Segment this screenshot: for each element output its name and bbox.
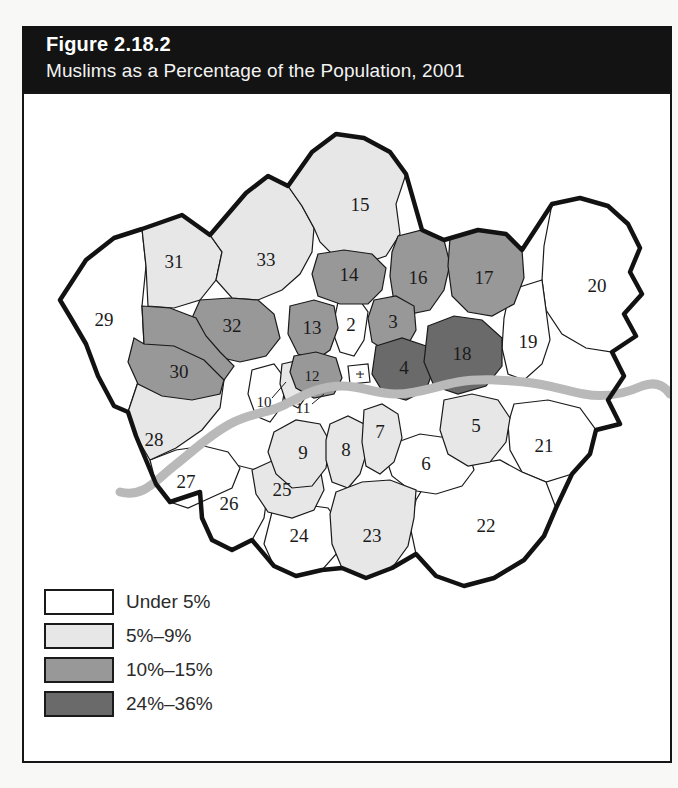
map-svg: 1 2 3 4 5 6 7 8 9 10 11 12 13 14 15 16 1	[24, 94, 670, 594]
figure-page: Figure 2.18.2 Muslims as a Percentage of…	[0, 0, 678, 788]
region-label-31: 31	[165, 251, 184, 272]
region-label-27: 27	[177, 471, 196, 492]
choropleth-map: 1 2 3 4 5 6 7 8 9 10 11 12 13 14 15 16 1	[24, 94, 670, 594]
legend-label-5-9: 5%–9%	[126, 625, 192, 647]
legend-item[interactable]: 24%–36%	[44, 688, 344, 720]
region-label-32: 32	[223, 315, 242, 336]
region-label-13: 13	[303, 317, 322, 338]
legend-item[interactable]: 10%–15%	[44, 654, 344, 686]
region-label-22: 22	[477, 515, 496, 536]
figure-number: Figure 2.18.2	[46, 31, 672, 57]
legend-label-24-36: 24%–36%	[126, 693, 213, 715]
region-label-23: 23	[363, 525, 382, 546]
region-label-8: 8	[341, 439, 351, 460]
region-label-19: 19	[519, 331, 538, 352]
legend-swatch-24-36	[44, 691, 114, 717]
legend-item[interactable]: 5%–9%	[44, 620, 344, 652]
region-label-11: 11	[296, 400, 310, 416]
region-label-16: 16	[409, 267, 428, 288]
region-label-3: 3	[388, 311, 398, 332]
region-label-24: 24	[290, 525, 310, 546]
region-label-33: 33	[257, 249, 276, 270]
region-label-17: 17	[475, 267, 494, 288]
legend-item[interactable]: Under 5%	[44, 586, 344, 618]
region-label-28: 28	[145, 429, 164, 450]
region-label-12: 12	[305, 368, 320, 384]
region-label-2: 2	[346, 314, 356, 335]
region-label-30: 30	[170, 361, 189, 382]
region-label-6: 6	[421, 453, 431, 474]
region-label-7: 7	[375, 421, 385, 442]
region-label-25: 25	[273, 479, 292, 500]
legend-swatch-5-9	[44, 623, 114, 649]
region-label-15: 15	[351, 194, 370, 215]
region-label-5: 5	[471, 415, 481, 436]
region-label-4: 4	[399, 357, 409, 378]
region-label-20: 20	[588, 275, 607, 296]
region-label-10: 10	[257, 394, 272, 410]
legend-label-10-15: 10%–15%	[126, 659, 213, 681]
legend-swatch-under-5	[44, 589, 114, 615]
figure-subtitle: Muslims as a Percentage of the Populatio…	[46, 57, 672, 85]
legend-label-under-5: Under 5%	[126, 591, 211, 613]
region-label-26: 26	[220, 493, 239, 514]
region-label-9: 9	[298, 442, 308, 463]
figure-frame: 1 2 3 4 5 6 7 8 9 10 11 12 13 14 15 16 1	[22, 92, 672, 763]
map-legend: Under 5% 5%–9% 10%–15% 24%–36%	[44, 586, 344, 722]
region-label-29: 29	[95, 309, 114, 330]
figure-header: Figure 2.18.2 Muslims as a Percentage of…	[22, 26, 672, 92]
region-label-21: 21	[535, 435, 554, 456]
region-label-18: 18	[453, 343, 472, 364]
legend-swatch-10-15	[44, 657, 114, 683]
region-label-14: 14	[340, 264, 360, 285]
